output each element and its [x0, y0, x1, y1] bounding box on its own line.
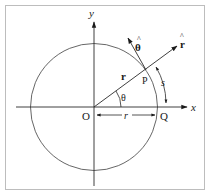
- angle-theta-label: θ: [121, 92, 126, 103]
- x-axis-label: x: [190, 101, 196, 113]
- unit-r-hat: ^: [180, 32, 184, 41]
- point-q-label: Q: [160, 110, 168, 122]
- position-vector-label: r: [121, 70, 126, 82]
- origin-label: O: [82, 110, 90, 122]
- figure-border: [6, 6, 205, 190]
- diagram-canvas: y x O Q P r r θ s r ^ θ ^: [0, 0, 210, 194]
- arc-length-label: s: [161, 77, 165, 88]
- unit-theta-hat: ^: [137, 35, 141, 44]
- y-axis-label: y: [88, 7, 94, 19]
- radius-label: r: [124, 110, 128, 121]
- point-p-label: P: [142, 75, 148, 86]
- polar-coordinates-diagram: y x O Q P r r θ s r ^ θ ^: [0, 0, 210, 194]
